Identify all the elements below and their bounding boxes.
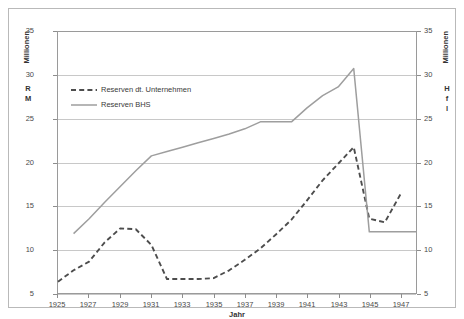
gridline (58, 294, 416, 295)
x-axis-tick (88, 294, 89, 298)
plot-area (57, 31, 417, 294)
y-axis-left-tick-label: 15 (26, 202, 34, 210)
series-line-1 (58, 147, 400, 281)
y-axis-right-unit: Hfl (441, 84, 453, 114)
y-axis-left-tick-label: 20 (26, 159, 34, 167)
y-axis-left-title-text: Millionen (22, 31, 32, 64)
y-axis-left-tick (53, 75, 57, 76)
y-axis-left-unit-line: R (22, 84, 34, 94)
x-axis-tick-label: 1927 (73, 300, 103, 309)
x-axis-title: Jahr (57, 310, 417, 319)
legend-swatch-solid-icon (71, 100, 97, 110)
y-axis-right-unit-line: f (441, 94, 453, 104)
y-axis-right-tick-label: 15 (424, 202, 432, 210)
y-axis-right-tick (417, 119, 421, 120)
y-axis-right-tick (417, 250, 421, 251)
y-axis-right-unit-line: H (441, 84, 453, 94)
x-axis-tick-label: 1939 (261, 300, 291, 309)
y-axis-right-tick (417, 206, 421, 207)
series-layer (58, 31, 416, 293)
x-axis-tick-label: 1933 (167, 300, 197, 309)
y-axis-left-tick (53, 206, 57, 207)
y-axis-left-tick (53, 119, 57, 120)
x-axis-tick (245, 294, 246, 298)
x-axis-tick-label: 1947 (386, 300, 416, 309)
x-axis-tick (307, 294, 308, 298)
y-axis-right-tick-label: 20 (424, 159, 432, 167)
x-axis-tick-label: 1943 (324, 300, 354, 309)
y-axis-right-tick-label: 5 (424, 290, 428, 298)
legend-item-label: Reserven BHS (101, 100, 151, 109)
y-axis-right-tick-label: 35 (424, 27, 432, 35)
y-axis-left-tick (53, 31, 57, 32)
y-axis-left-title: Millionen (22, 31, 34, 64)
y-axis-right-tick (417, 75, 421, 76)
x-axis-tick-label: 1945 (355, 300, 385, 309)
y-axis-right-unit-line: l (441, 104, 453, 114)
x-axis-tick-label: 1941 (292, 300, 322, 309)
y-axis-right-tick (417, 31, 421, 32)
x-axis-tick (57, 294, 58, 298)
figure-frame: Millionen RM Millionen Hfl 5101520253035… (8, 8, 456, 308)
y-axis-right-tick-label: 25 (424, 115, 432, 123)
x-axis-tick (401, 294, 402, 298)
y-axis-left-tick-label: 5 (30, 290, 34, 298)
y-axis-right-tick-label: 10 (424, 246, 432, 254)
x-axis-tick (182, 294, 183, 298)
y-axis-left-tick-label: 30 (26, 71, 34, 79)
x-axis-tick-label: 1929 (105, 300, 135, 309)
legend-swatch-dashed-icon (71, 85, 97, 95)
x-axis-tick (339, 294, 340, 298)
y-axis-left-tick-label: 10 (26, 246, 34, 254)
x-axis-tick-label: 1937 (230, 300, 260, 309)
y-axis-left-tick (53, 250, 57, 251)
y-axis-left-tick-label: 35 (26, 27, 34, 35)
y-axis-left-unit-line: M (22, 94, 34, 104)
x-axis-tick-label: 1931 (136, 300, 166, 309)
legend-item: Reserven BHS (71, 97, 241, 112)
x-axis-tick (370, 294, 371, 298)
y-axis-left-tick-label: 25 (26, 115, 34, 123)
y-axis-right-tick-label: 30 (424, 71, 432, 79)
x-axis-tick-label: 1935 (199, 300, 229, 309)
y-axis-left-unit: RM (22, 84, 34, 104)
legend-item-label: Reserven dt. Unternehmen (101, 85, 191, 94)
y-axis-right-title-text: Millionen (441, 31, 451, 64)
x-axis-tick (151, 294, 152, 298)
x-axis-tick-label: 1925 (42, 300, 72, 309)
x-axis-tick (276, 294, 277, 298)
chart-root: Millionen RM Millionen Hfl 5101520253035… (0, 0, 464, 319)
y-axis-left-tick (53, 163, 57, 164)
x-axis-tick (214, 294, 215, 298)
y-axis-right-tick (417, 294, 421, 295)
y-axis-right-tick (417, 163, 421, 164)
chart-legend: Reserven dt. UnternehmenReserven BHS (71, 82, 241, 112)
legend-item: Reserven dt. Unternehmen (71, 82, 241, 97)
x-axis-tick (120, 294, 121, 298)
y-axis-right-title: Millionen (441, 31, 453, 64)
